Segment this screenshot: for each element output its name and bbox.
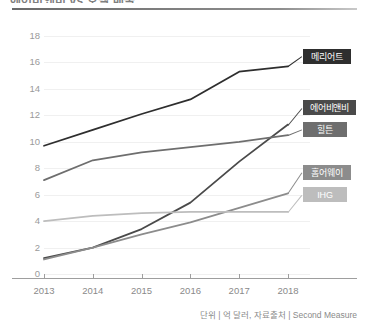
legend-leader-line bbox=[288, 130, 302, 137]
x-axis-line bbox=[12, 278, 357, 279]
legend-label-ihg[interactable]: IHG bbox=[303, 187, 347, 202]
x-tick-label: 2013 bbox=[24, 285, 64, 296]
x-tick bbox=[288, 274, 289, 279]
y-tick-label: 10 bbox=[24, 137, 40, 147]
x-tick bbox=[190, 274, 191, 279]
series-line bbox=[44, 135, 288, 180]
series-line bbox=[44, 125, 288, 259]
series-line bbox=[44, 66, 288, 145]
legend-leader-line bbox=[288, 173, 303, 194]
x-tick bbox=[239, 274, 240, 279]
x-tick bbox=[142, 274, 143, 279]
y-tick-label: 4 bbox=[24, 216, 40, 226]
legend-leader-line bbox=[288, 108, 303, 126]
source-note: 단위 | 억 달러, 자료출처 | Second Measure bbox=[200, 308, 357, 320]
legend-label-메리어트[interactable]: 메리어트 bbox=[303, 49, 351, 64]
plot-area bbox=[44, 36, 288, 274]
gridline bbox=[44, 274, 310, 275]
y-tick-label: 18 bbox=[24, 31, 40, 41]
x-tick bbox=[93, 274, 94, 279]
legend-label-에어비앤비[interactable]: 에어비앤비 bbox=[303, 100, 356, 115]
x-tick-label: 2017 bbox=[219, 285, 259, 296]
x-tick-label: 2014 bbox=[73, 285, 113, 296]
x-tick-label: 2016 bbox=[170, 285, 210, 296]
series-lines bbox=[44, 36, 288, 274]
title-divider bbox=[12, 8, 357, 10]
y-tick-label: 14 bbox=[24, 84, 40, 94]
y-tick-label: 16 bbox=[24, 57, 40, 67]
y-tick-label: 6 bbox=[24, 190, 40, 200]
x-tick bbox=[44, 274, 45, 279]
y-axis: 024681012141618 bbox=[0, 0, 40, 331]
line-chart-figure: 에어비앤비 vs 호텔 매출 024681012141618 201320142… bbox=[0, 0, 369, 331]
legend-label-홈어웨이[interactable]: 홈어웨이 bbox=[303, 165, 351, 180]
y-tick-label: 2 bbox=[24, 243, 40, 253]
legend-leader-line bbox=[288, 195, 303, 213]
y-tick-label: 12 bbox=[24, 110, 40, 120]
x-tick-label: 2018 bbox=[268, 285, 308, 296]
y-tick-label: 8 bbox=[24, 163, 40, 173]
legend-label-힐튼[interactable]: 힐튼 bbox=[303, 122, 347, 137]
x-tick-label: 2015 bbox=[122, 285, 162, 296]
